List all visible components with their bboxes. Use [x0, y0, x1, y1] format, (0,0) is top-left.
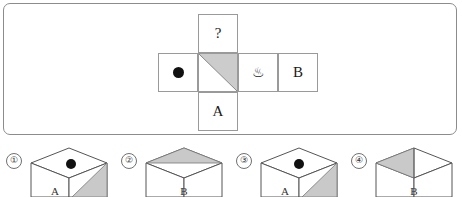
cube-net-diagram: ? ♨ B A: [156, 12, 340, 130]
answer-option-3[interactable]: ③ A: [232, 144, 347, 197]
hot-spring-icon: ♨: [252, 66, 265, 80]
option-1-cube: A: [24, 144, 114, 197]
question-panel: ? ♨ B A: [3, 3, 457, 135]
option-3-number: ③: [236, 153, 252, 169]
option-2-cube: B: [139, 144, 229, 197]
net-cell-b: B: [278, 53, 318, 92]
option-4-cube: B: [369, 144, 459, 197]
answer-option-4[interactable]: ④ B: [347, 144, 462, 197]
svg-text:B: B: [180, 185, 187, 197]
net-cell-hot-spring: ♨: [238, 53, 278, 92]
black-dot-icon: [173, 67, 184, 78]
svg-text:B: B: [410, 185, 417, 197]
answer-option-1[interactable]: ① A: [2, 144, 117, 197]
answer-options-row: ① A ②: [0, 144, 462, 197]
net-cell-a: A: [198, 92, 238, 131]
option-4-number: ④: [351, 153, 367, 169]
svg-text:A: A: [281, 185, 289, 197]
net-cell-triangle: [198, 53, 238, 92]
option-2-number: ②: [121, 153, 137, 169]
net-cell-unknown: ?: [198, 14, 238, 53]
option-1-number: ①: [6, 153, 22, 169]
answer-option-2[interactable]: ② B: [117, 144, 232, 197]
svg-text:A: A: [51, 185, 59, 197]
option-3-cube: A: [254, 144, 344, 197]
net-cell-dot: [158, 53, 198, 92]
